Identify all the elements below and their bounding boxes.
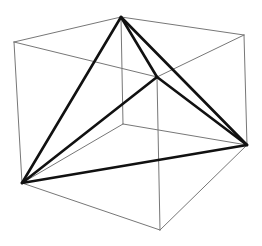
cube-edge (157, 77, 160, 230)
cube-edge (22, 183, 160, 230)
tetrahedron-edge (22, 17, 121, 183)
cube-edge (121, 17, 244, 35)
tetrahedron-edge (157, 77, 247, 145)
cube-edge (244, 35, 247, 145)
cube-edge (14, 42, 157, 77)
cube-edge (14, 17, 121, 42)
cube-edge (121, 17, 123, 124)
tetrahedron-edges (22, 17, 247, 183)
tetrahedron-edge (121, 17, 247, 145)
cube-edge (14, 42, 22, 183)
tetrahedron-edge (22, 77, 157, 183)
cube-tetrahedron-diagram (0, 0, 262, 246)
cube-wireframe (14, 17, 247, 230)
cube-edge (157, 35, 244, 77)
